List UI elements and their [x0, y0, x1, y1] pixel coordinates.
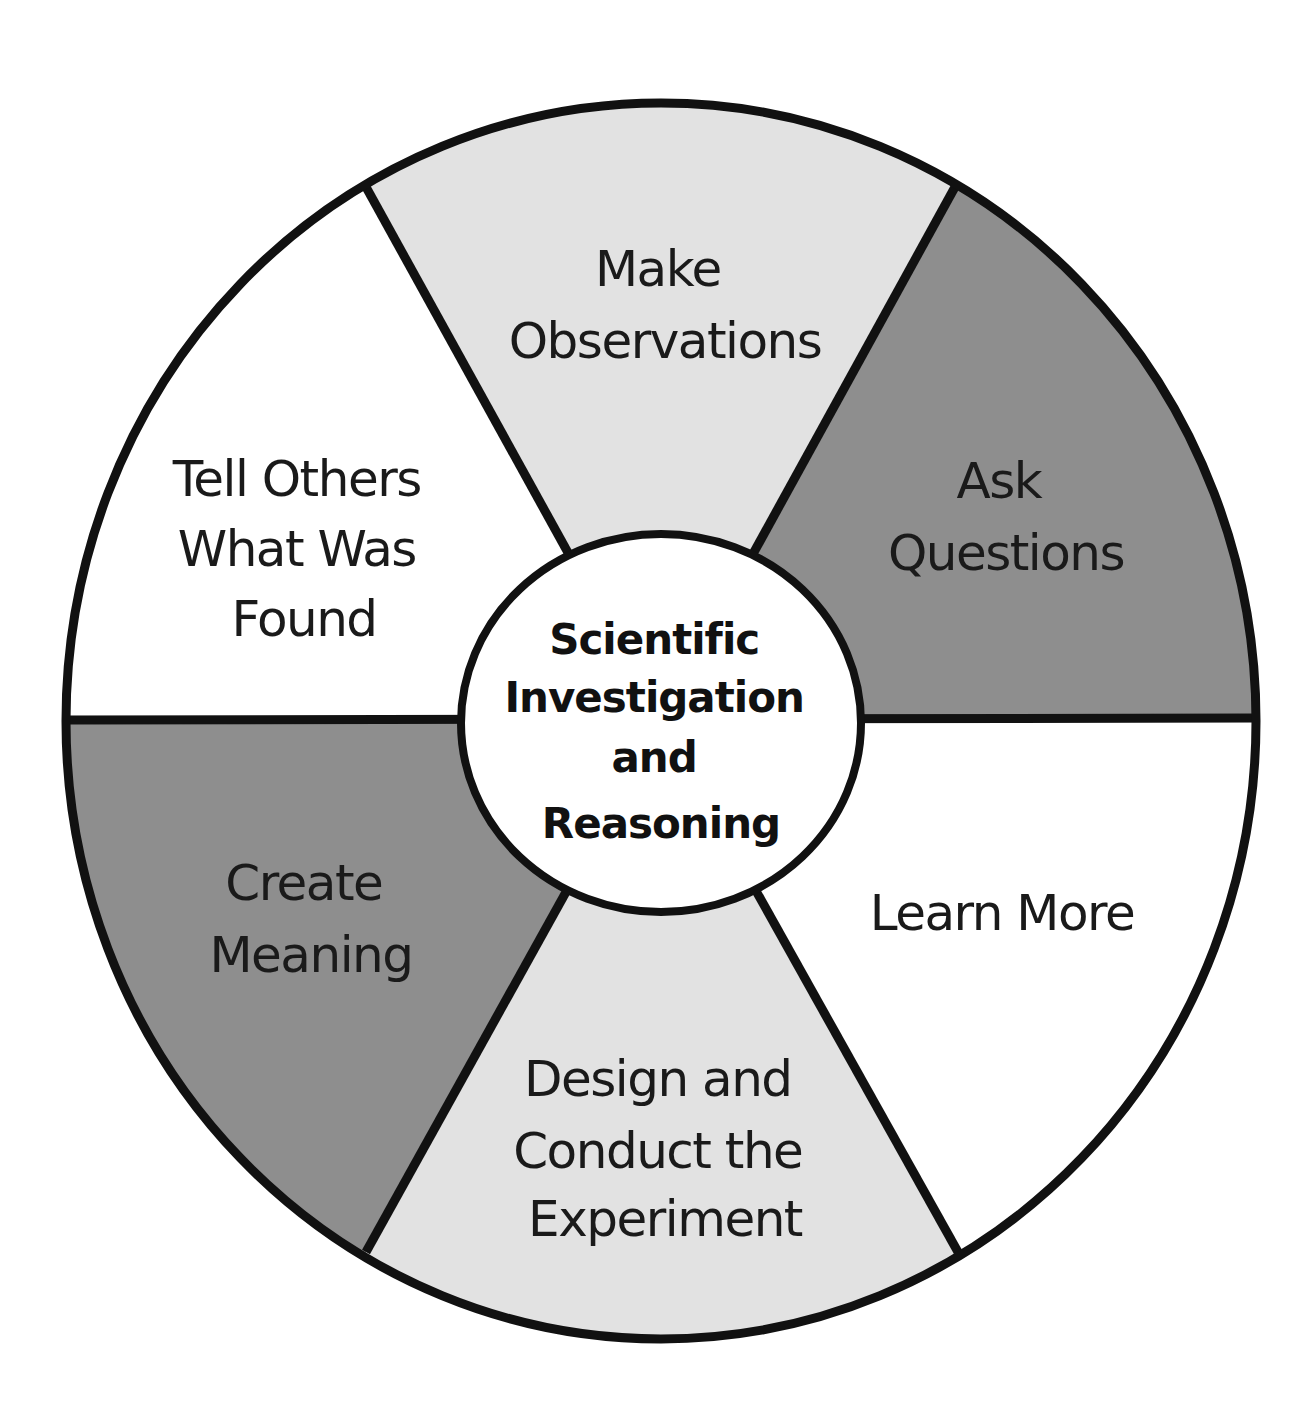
label-learn-more: Learn More	[870, 884, 1135, 942]
center-circle	[461, 534, 861, 912]
label-design-conduct: Design and Conduct the Experiment	[513, 1050, 817, 1248]
scientific-process-wheel: Make Observations Ask Questions Learn Mo…	[0, 0, 1316, 1416]
